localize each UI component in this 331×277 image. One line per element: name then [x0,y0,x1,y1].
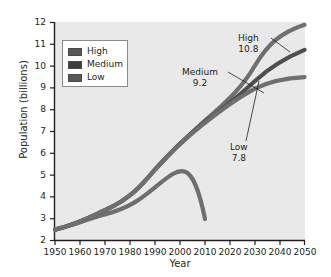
xtick-label-2050: 2050 [288,248,322,257]
series-line-low [55,77,305,230]
leader-line-high [271,38,290,52]
legend-swatch-high-icon [68,48,82,56]
legend-swatch-medium-icon [68,61,82,69]
annotation-high-value: 10.8 [238,44,259,55]
legend-label-low: Low [87,73,105,82]
legend-item-high: High [68,45,127,58]
legend-swatch-low-icon [68,74,82,82]
annotation-high-name: High [238,33,259,44]
annotation-high: High 10.8 [238,33,259,54]
annotation-medium-name: Medium [182,67,218,78]
ytick-label-2: 2 [24,236,46,245]
legend-item-medium: Medium [68,58,127,71]
y-axis-title: Population (billions) [18,40,29,180]
legend-item-low: Low [68,71,127,84]
x-axis-title: Year [120,258,240,269]
annotation-medium-value: 9.2 [182,78,218,89]
ytick-label-4: 4 [24,192,46,201]
annotation-low-name: Low [230,142,248,153]
legend-label-medium: Medium [87,60,123,69]
annotation-low: Low 7.8 [230,142,248,163]
legend-label-high: High [87,47,108,56]
legend: High Medium Low [62,40,128,87]
annotation-medium: Medium 9.2 [182,67,218,88]
ytick-label-3: 3 [24,214,46,223]
population-projection-chart: 2 3 4 5 6 7 8 9 10 11 12 1950 1960 1970 … [0,0,331,277]
annotation-low-value: 7.8 [230,153,248,164]
chart-svg-layer [0,0,331,277]
ytick-label-12: 12 [24,18,46,27]
